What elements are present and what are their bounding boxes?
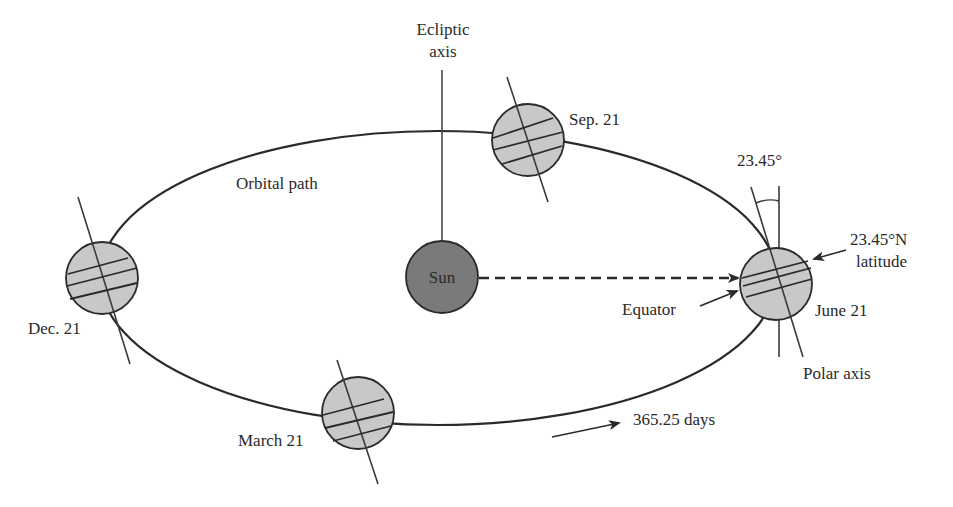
tilt-angle-label: 23.45° bbox=[737, 151, 782, 170]
sep-21-label: Sep. 21 bbox=[569, 110, 620, 129]
earth-dec-21: Dec. 21 bbox=[28, 197, 138, 364]
orbit-direction-arrow bbox=[552, 423, 619, 437]
june-21-label: June 21 bbox=[815, 301, 867, 320]
earth-march-21: March 21 bbox=[238, 360, 394, 484]
ecliptic-axis-label-line2: axis bbox=[429, 42, 456, 61]
earth-icon bbox=[66, 242, 138, 314]
equator-label: Equator bbox=[622, 300, 676, 319]
polar-axis-label: Polar axis bbox=[803, 364, 871, 383]
tilt-angle-arc bbox=[756, 200, 779, 203]
sun: Sun bbox=[406, 241, 478, 313]
march-21-label: March 21 bbox=[238, 431, 304, 450]
orbital-period-label: 365.25 days bbox=[633, 410, 715, 429]
earth-sep-21: Sep. 21 bbox=[492, 77, 620, 202]
latitude-label-line1: 23.45°N bbox=[850, 230, 907, 249]
latitude-pointer-arrow bbox=[814, 250, 846, 259]
earth-june-21: 23.45° 23.45°N latitude Equator June 21 … bbox=[622, 151, 907, 383]
dec-21-label: Dec. 21 bbox=[28, 319, 81, 338]
equator-pointer-arrow bbox=[700, 291, 737, 306]
orbital-path-label: Orbital path bbox=[236, 174, 318, 193]
ecliptic-axis-label-line1: Ecliptic bbox=[417, 20, 470, 39]
latitude-label-line2: latitude bbox=[856, 252, 907, 271]
earth-orbit-diagram: Ecliptic axis Orbital path Sun Sep. 21 D… bbox=[0, 0, 953, 507]
sun-label: Sun bbox=[429, 268, 456, 287]
